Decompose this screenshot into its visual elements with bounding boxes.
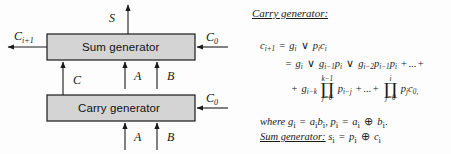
signal-carry-in-top-base: C bbox=[206, 30, 214, 44]
signal-label-b-bottom: B bbox=[167, 130, 174, 145]
eq2-t4-sub: i−2 bbox=[364, 63, 374, 71]
where-equals-1: = bbox=[298, 116, 307, 127]
where-keyword: where bbox=[260, 116, 285, 127]
where-definitions-line: where gi = aibi, pi = ai ⊕ bi. bbox=[260, 115, 388, 130]
product-2-lower-limit: j=0 bbox=[384, 95, 398, 102]
signal-label-carry-in-top: C0 bbox=[206, 30, 218, 46]
sum-s-sub: i bbox=[332, 135, 334, 145]
diagram-canvas bbox=[0, 0, 234, 154]
signal-carry-in-bottom-base: C bbox=[206, 91, 214, 105]
eq2-plus-2: + bbox=[416, 58, 425, 69]
eq1-t1-sub: i bbox=[295, 45, 297, 53]
signal-carry-in-bottom-sub: 0 bbox=[214, 98, 218, 107]
where-p-sub: i bbox=[336, 120, 338, 130]
sum-generator-label: Sum generator bbox=[82, 41, 159, 53]
eq3-plus-2: + bbox=[354, 83, 363, 94]
where-xor: ⊕ bbox=[363, 116, 375, 127]
sum-equals: = bbox=[337, 131, 346, 142]
eq2-t6-sub: i bbox=[395, 63, 397, 71]
equation-line-1: ci+1 = gi ∨ pici bbox=[260, 39, 327, 53]
eq3-t4-sub: 0, bbox=[413, 88, 418, 96]
sum-generator-keyword: Sum generator: bbox=[260, 131, 326, 142]
signal-carry-out-base: C bbox=[14, 29, 22, 43]
signal-carry-in-top-sub: 0 bbox=[214, 37, 218, 46]
eq3-ellipsis: ... bbox=[363, 83, 371, 94]
product-operator-2: i ∏ j=0 bbox=[384, 76, 398, 103]
product-1-lower-limit: j=0 bbox=[320, 95, 334, 102]
carry-generator-heading: Carry generator: bbox=[252, 7, 328, 19]
where-g-sub: i bbox=[293, 120, 295, 130]
where-comma: , bbox=[325, 116, 328, 127]
signal-label-internal-carry: C bbox=[73, 73, 81, 88]
signal-label-carry-in-bottom: C0 bbox=[206, 91, 218, 107]
equation-panel: Carry generator: ci+1 = gi ∨ pici = gi ∨… bbox=[238, 0, 451, 154]
signal-label-carry-out: Ci+1 bbox=[14, 29, 34, 45]
eq1-lhs-sub: i+1 bbox=[265, 45, 275, 53]
where-equals-2: = bbox=[341, 116, 350, 127]
eq3-t1-sub: i−k bbox=[307, 88, 317, 96]
eq2-t1-sub: i bbox=[301, 63, 303, 71]
signal-label-b-top: B bbox=[167, 69, 174, 84]
eq2-or-1: ∨ bbox=[305, 58, 316, 69]
eq2-t3-sub: i bbox=[340, 63, 342, 71]
equation-line-2: = gi ∨ gi−1pi ∨ gi−2pi−1pi +...+ bbox=[284, 57, 425, 71]
eq1-or-1: ∨ bbox=[299, 40, 310, 51]
eq3-t2-sub: i−j bbox=[343, 88, 352, 96]
where-period: . bbox=[385, 116, 388, 127]
product-operator-1: k−1 ∏ j=0 bbox=[320, 76, 334, 103]
signal-carry-out-sub: i+1 bbox=[22, 36, 34, 45]
eq3-plus-1: + bbox=[290, 83, 299, 94]
eq2-equals: = bbox=[284, 58, 293, 69]
sum-p-sub: i bbox=[354, 135, 356, 145]
block-diagram: Sum generator Carry generator S Ci+1 C0 … bbox=[0, 0, 234, 154]
signal-label-s: S bbox=[109, 11, 115, 26]
figure-root: Sum generator Carry generator S Ci+1 C0 … bbox=[0, 0, 451, 154]
eq2-or-2: ∨ bbox=[345, 58, 356, 69]
carry-generator-label: Carry generator bbox=[78, 102, 160, 114]
where-a2-sub: i bbox=[358, 120, 360, 130]
signal-label-a-bottom: A bbox=[134, 130, 141, 145]
eq3-plus-3: + bbox=[371, 83, 380, 94]
signal-label-a-top: A bbox=[134, 69, 141, 84]
sum-xor: ⊕ bbox=[359, 131, 371, 142]
sum-generator-definition-line: Sum generator: si = pi ⊕ ci bbox=[260, 130, 381, 145]
eq1-equals: = bbox=[278, 40, 287, 51]
equation-line-3: + gi−k k−1 ∏ j=0 pi−j +...+ i ∏ j=0 pjc0… bbox=[290, 76, 418, 103]
sum-c-sub: i bbox=[379, 135, 381, 145]
eq2-t2-sub: i−1 bbox=[324, 63, 334, 71]
eq1-t3-sub: i bbox=[325, 45, 327, 53]
eq2-t5-sub: i−1 bbox=[379, 63, 389, 71]
